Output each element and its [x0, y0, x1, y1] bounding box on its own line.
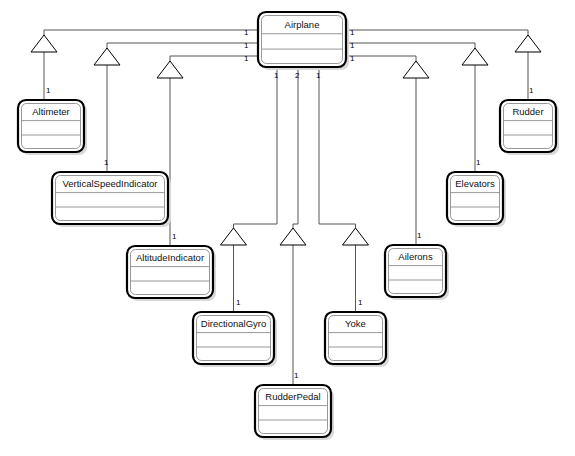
- aggregation-arrowhead-rudderpedal: [280, 228, 306, 245]
- aggregation-arrowhead-rudder: [515, 35, 541, 52]
- class-box-altitudeindicator[interactable]: AltitudeIndicator: [127, 246, 216, 301]
- aggregation-arrowhead-altimeter: [31, 35, 57, 52]
- class-name-directionalgyro: DirectionalGyro: [201, 318, 266, 329]
- class-name-altimeter: Altimeter: [32, 106, 69, 117]
- aggregation-arrowhead-directionalgyro: [221, 228, 247, 245]
- edge-airplane-yoke: [319, 67, 356, 312]
- edge-airplane-directionalgyro: [234, 67, 278, 312]
- multiplicity-m-bot-2: 2: [295, 71, 300, 80]
- multiplicity-m-directionalgyro: 1: [236, 298, 241, 307]
- class-name-ailerons: Ailerons: [398, 251, 433, 262]
- class-name-yoke: Yoke: [345, 318, 366, 329]
- aggregation-arrowhead-altitudeindicator: [157, 61, 183, 78]
- class-box-yoke[interactable]: Yoke: [325, 312, 389, 367]
- edge-airplane-rudderpedal: [293, 67, 298, 385]
- class-box-elevators[interactable]: Elevators: [447, 172, 506, 227]
- edge-airplane-ailerons: [346, 56, 416, 245]
- class-name-verticalspeedindicator: VerticalSpeedIndicator: [62, 178, 157, 189]
- aggregation-arrowhead-verticalspeedindicator: [94, 48, 120, 65]
- class-box-verticalspeedindicator[interactable]: VerticalSpeedIndicator: [52, 172, 171, 227]
- uml-class-diagram: AirplaneAltimeterVerticalSpeedIndicatorA…: [0, 0, 575, 456]
- class-name-elevators: Elevators: [455, 178, 495, 189]
- aggregation-arrowhead-yoke: [343, 228, 369, 245]
- multiplicity-m-left-3: 1: [244, 54, 249, 63]
- multiplicity-m-rudder: 1: [529, 86, 534, 95]
- class-boxes: AirplaneAltimeterVerticalSpeedIndicatorA…: [18, 12, 559, 440]
- multiplicity-m-bot-3: 1: [316, 71, 321, 80]
- multiplicity-m-right-1: 1: [350, 28, 355, 37]
- edge-airplane-rudder: [346, 30, 528, 100]
- class-name-rudder: Rudder: [512, 106, 543, 117]
- multiplicity-m-right-3: 1: [350, 54, 355, 63]
- class-box-rudderpedal[interactable]: RudderPedal: [255, 385, 334, 440]
- class-name-airplane: Airplane: [285, 19, 320, 30]
- multiplicity-m-yoke: 1: [358, 298, 363, 307]
- multiplicity-m-bot-1: 1: [274, 71, 279, 80]
- multiplicity-m-left-1: 1: [244, 28, 249, 37]
- multiplicity-m-elevators: 1: [476, 158, 481, 167]
- class-name-altitudeindicator: AltitudeIndicator: [136, 252, 204, 263]
- multiplicity-m-left-2: 1: [244, 41, 249, 50]
- edge-airplane-altimeter: [44, 30, 258, 100]
- class-box-directionalgyro[interactable]: DirectionalGyro: [193, 312, 277, 367]
- edge-airplane-elevators: [346, 43, 475, 172]
- class-box-ailerons[interactable]: Ailerons: [385, 245, 449, 300]
- class-box-altimeter[interactable]: Altimeter: [18, 100, 87, 155]
- aggregation-arrowhead-elevators: [462, 48, 488, 65]
- class-name-rudderpedal: RudderPedal: [265, 391, 320, 402]
- multiplicity-m-right-2: 1: [350, 41, 355, 50]
- multiplicity-m-altitudeind: 1: [172, 232, 177, 241]
- multiplicity-m-rudderpedal: 1: [294, 371, 299, 380]
- multiplicity-m-verticalspeed: 1: [104, 158, 109, 167]
- edge-airplane-altitudeindicator: [170, 56, 258, 246]
- edge-airplane-verticalspeedindicator: [107, 43, 258, 172]
- multiplicity-m-altimeter: 1: [46, 86, 51, 95]
- aggregation-arrowhead-ailerons: [403, 61, 429, 78]
- multiplicity-m-ailerons: 1: [417, 231, 422, 240]
- class-box-rudder[interactable]: Rudder: [500, 100, 559, 155]
- class-box-airplane[interactable]: Airplane: [258, 12, 349, 70]
